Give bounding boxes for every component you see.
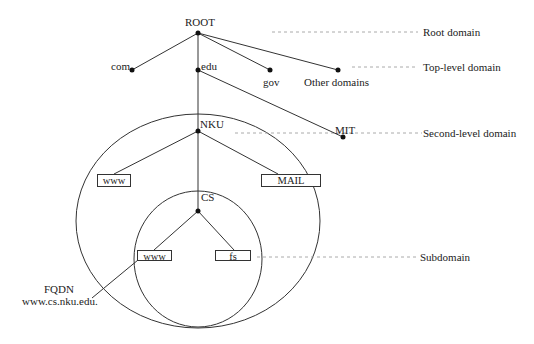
com-node [130,68,135,73]
fqdn-pointer [92,260,138,298]
cs-node [196,209,201,214]
edu-node [196,68,201,73]
nku-mail-box: MAIL [261,174,321,187]
diagram-canvas [0,0,534,344]
root-domain-label: Root domain [423,26,480,38]
root-node [196,31,201,36]
cs-www-box: www [137,250,172,261]
root-label: ROOT [185,16,215,28]
nku-www-box: www [97,174,131,187]
fqdn-value: www.cs.nku.edu. [22,295,98,307]
top-level-domain-label: Top-level domain [423,61,501,73]
edu-label: edu [201,60,217,72]
other-node [336,68,341,73]
subdomain-label: Subdomain [420,251,470,263]
mit-label: MIT [335,124,355,136]
cs-label: CS [201,191,214,203]
gov-label: gov [263,76,280,88]
fqdn-title: FQDN [44,283,74,295]
cs-fs-box: fs [215,250,251,261]
nku-label: NKU [200,118,224,130]
second-level-domain-label: Second-level domain [423,127,516,139]
other-domains-label: Other domains [304,76,369,88]
com-label: com [111,60,130,72]
gov-node [268,68,273,73]
